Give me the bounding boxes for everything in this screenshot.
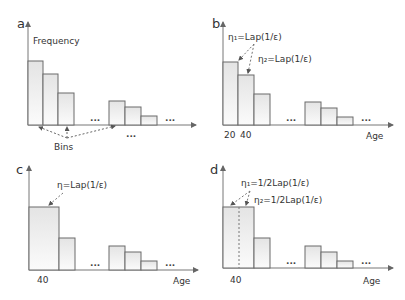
annotation-arrow bbox=[49, 193, 63, 205]
tick-label: 40 bbox=[240, 130, 252, 140]
panel-letter-a: a bbox=[17, 16, 25, 31]
histogram-bar bbox=[141, 261, 157, 270]
noise-annotation-2: η₂=1/2Lap(1/ε) bbox=[254, 195, 322, 205]
histogram-bar bbox=[254, 238, 270, 268]
noise-annotation-1: η₁=Lap(1/ε) bbox=[228, 32, 282, 42]
histogram-bar bbox=[223, 62, 238, 125]
histogram-bar bbox=[28, 61, 43, 125]
tick-label: 40 bbox=[37, 275, 49, 285]
histogram-bar bbox=[305, 246, 321, 268]
histogram-bar bbox=[125, 107, 141, 125]
ellipsis: ... bbox=[361, 256, 371, 266]
ellipsis: ... bbox=[286, 113, 296, 123]
histogram-bar bbox=[109, 246, 125, 270]
ellipsis: ... bbox=[90, 258, 100, 268]
bins-label: Bins bbox=[54, 142, 73, 152]
ellipsis: ... bbox=[165, 258, 175, 268]
histogram-bar bbox=[305, 102, 321, 125]
annotation-arrow bbox=[246, 191, 250, 205]
histogram-bar bbox=[125, 252, 141, 270]
histogram-bar bbox=[337, 117, 353, 125]
annotation-arrow bbox=[231, 191, 250, 205]
tick-label: 40 bbox=[230, 275, 242, 285]
ellipsis: ... bbox=[90, 113, 100, 123]
histogram-bar bbox=[109, 101, 125, 125]
panel-letter-d: d bbox=[210, 162, 218, 177]
x-axis-label: Age bbox=[366, 131, 384, 141]
ellipsis: ... bbox=[126, 129, 136, 139]
histogram-bar bbox=[337, 261, 353, 268]
noise-annotation-2: η₂=Lap(1/ε) bbox=[258, 54, 312, 64]
histogram-bar bbox=[29, 207, 59, 270]
ellipsis: ... bbox=[286, 256, 296, 266]
histogram-bar bbox=[141, 116, 157, 125]
histogram-bar bbox=[43, 74, 58, 125]
annotation-arrow bbox=[248, 44, 254, 73]
x-axis-label: Age bbox=[363, 276, 381, 286]
panel-letter-c: c bbox=[16, 162, 23, 177]
ellipsis: ... bbox=[165, 113, 175, 123]
panel-letter-b: b bbox=[212, 16, 220, 31]
histogram-bar bbox=[321, 252, 337, 268]
annotation-arrow bbox=[239, 44, 254, 60]
histogram-bar bbox=[58, 93, 74, 125]
histogram-bar bbox=[238, 75, 254, 125]
histogram-bar bbox=[254, 94, 270, 125]
x-axis-label: Age bbox=[173, 276, 191, 286]
panel-b: b ... ... η₁=Lap(1/ε) η₂=Lap(1/ε) 20 40 … bbox=[212, 16, 393, 141]
noise-annotation: η=Lap(1/ε) bbox=[57, 180, 107, 190]
ellipsis: ... bbox=[361, 113, 371, 123]
tick-label: 20 bbox=[224, 130, 236, 140]
y-axis-label: Frequency bbox=[33, 36, 80, 46]
noise-annotation-1: η₁=1/2Lap(1/ε) bbox=[241, 178, 309, 188]
panel-a: a Frequency ... ... ... Bins bbox=[17, 16, 196, 152]
panel-c: c ... ... η=Lap(1/ε) 40 Age bbox=[16, 162, 198, 286]
histogram-bar bbox=[321, 108, 337, 125]
bins-arrows bbox=[39, 126, 115, 138]
panel-d: d ... ... η₁=1/2Lap(1/ε) η₂=1/2Lap(1/ε) … bbox=[210, 162, 393, 286]
histogram-bar bbox=[59, 238, 75, 270]
figure-canvas: a Frequency ... ... ... Bins b ... bbox=[0, 0, 405, 300]
